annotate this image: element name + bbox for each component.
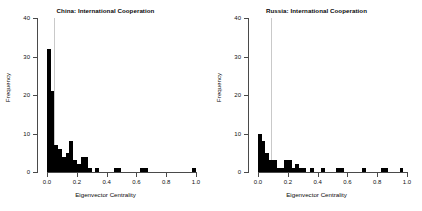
x-tick-label: 0.6: [335, 179, 359, 185]
x-axis-line: [258, 172, 408, 173]
y-tick: [244, 57, 248, 58]
x-tick: [77, 173, 78, 177]
y-tick-label: 40: [223, 15, 241, 21]
plot-area: 010203040 0.00.20.40.60.81.0: [211, 0, 422, 211]
y-tick-label: 20: [12, 92, 30, 98]
x-tick-label: 0.0: [246, 179, 270, 185]
x-tick-label: 0.4: [306, 179, 330, 185]
y-axis-line: [37, 18, 38, 173]
x-tick: [166, 173, 167, 177]
x-tick-label: 1.0: [184, 179, 208, 185]
y-tick-label: 20: [223, 92, 241, 98]
x-tick-label: 0.2: [65, 179, 89, 185]
x-tick: [47, 173, 48, 177]
x-tick: [258, 173, 259, 177]
y-tick: [244, 134, 248, 135]
x-tick-label: 0.4: [95, 179, 119, 185]
y-axis-line: [248, 18, 249, 173]
y-tick: [33, 57, 37, 58]
y-tick-label: 0: [223, 169, 241, 175]
x-tick: [107, 173, 108, 177]
x-tick-label: 0.0: [35, 179, 59, 185]
x-tick-label: 0.8: [154, 179, 178, 185]
y-tick-label: 0: [12, 169, 30, 175]
x-axis-title: Eigenvector Centrality: [211, 191, 422, 198]
y-axis-title: Frequency: [215, 60, 222, 116]
x-tick: [377, 173, 378, 177]
x-axis-line: [47, 172, 197, 173]
x-tick: [196, 173, 197, 177]
y-tick: [244, 95, 248, 96]
x-tick-label: 0.2: [276, 179, 300, 185]
y-tick-label: 10: [223, 131, 241, 137]
y-tick-label: 30: [223, 54, 241, 60]
y-tick-label: 40: [12, 15, 30, 21]
y-tick: [33, 172, 37, 173]
y-tick: [244, 18, 248, 19]
figure-root: China: International Cooperation 0102030…: [0, 0, 422, 211]
y-tick-label: 10: [12, 131, 30, 137]
x-tick: [318, 173, 319, 177]
x-tick: [136, 173, 137, 177]
y-axis-title: Frequency: [4, 60, 11, 116]
x-tick: [407, 173, 408, 177]
plot-area: 010203040 0.00.20.40.60.81.0: [0, 0, 211, 211]
x-tick-label: 1.0: [395, 179, 419, 185]
x-tick-label: 0.8: [365, 179, 389, 185]
y-tick: [244, 172, 248, 173]
y-tick: [33, 134, 37, 135]
y-tick: [33, 95, 37, 96]
y-tick-label: 30: [12, 54, 30, 60]
x-tick: [288, 173, 289, 177]
x-axis-title: Eigenvector Centrality: [0, 191, 211, 198]
x-tick-label: 0.6: [124, 179, 148, 185]
chart-panel-russia: Russia: International Cooperation 010203…: [211, 0, 422, 211]
x-tick: [347, 173, 348, 177]
chart-panel-china: China: International Cooperation 0102030…: [0, 0, 211, 211]
y-tick: [33, 18, 37, 19]
